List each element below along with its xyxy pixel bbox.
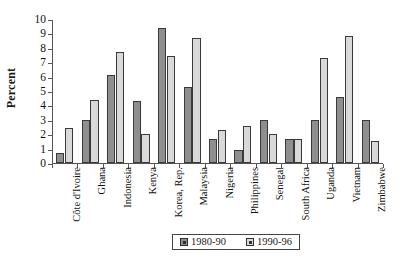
x-axis-category-label: Zimbabwe	[374, 167, 385, 212]
bar	[167, 56, 175, 163]
y-axis-tick-labels: 109876543210	[28, 20, 46, 164]
x-axis-line	[52, 163, 383, 164]
y-axis-tick	[48, 92, 52, 93]
bar	[294, 139, 302, 163]
y-axis-tick-label: 4	[30, 100, 46, 112]
x-axis-category-label: Korea, Rep.	[171, 167, 182, 217]
y-axis-tick-label: 5	[30, 86, 46, 98]
bar	[234, 150, 242, 163]
x-axis-category-label: Uganda	[323, 167, 334, 200]
bar	[285, 139, 293, 163]
y-axis-tick	[48, 49, 52, 50]
legend-swatch-icon-1990-96	[246, 238, 254, 246]
bar	[158, 28, 166, 163]
x-axis-category-label: Côte d'Ivoire	[69, 167, 80, 222]
x-axis-category-label: Kenya	[145, 167, 156, 194]
bar	[260, 120, 268, 163]
bar	[56, 153, 64, 163]
y-axis-tick-label: 9	[30, 28, 46, 40]
x-axis-category-label: Indonesia	[120, 167, 131, 208]
x-axis-category-label: Ghana	[94, 167, 105, 194]
y-axis-tick	[48, 121, 52, 122]
bar	[209, 139, 217, 163]
bar	[65, 128, 73, 163]
y-axis-tick-label: 2	[30, 129, 46, 141]
y-axis-tick-label: 3	[30, 115, 46, 127]
x-axis-category-label: Philippines	[247, 167, 258, 214]
y-axis-tick-label: 0	[30, 158, 46, 170]
bar	[243, 126, 251, 163]
bar	[320, 58, 328, 163]
legend-label-series-1: 1990-96	[257, 237, 292, 248]
bar	[116, 52, 124, 163]
legend-item-series-1: 1990-96	[246, 237, 292, 248]
y-axis-tick-label: 7	[30, 57, 46, 69]
x-axis-category-label: South Africa	[298, 167, 309, 220]
x-axis-category-labels: Côte d'IvoireGhanaIndonesiaKenyaKorea, R…	[52, 167, 383, 229]
y-axis-tick	[48, 135, 52, 136]
x-axis-category-label: Nigeria	[222, 167, 233, 199]
bar	[336, 97, 344, 163]
bar	[107, 75, 115, 163]
bar	[371, 141, 379, 163]
legend-swatch-icon-1980-90	[180, 238, 188, 246]
bar	[90, 100, 98, 163]
y-axis-tick-label: 10	[30, 14, 46, 26]
bar	[362, 120, 370, 163]
bar-chart: Percent 109876543210 Côte d'IvoireGhanaI…	[0, 0, 402, 261]
legend-label-series-0: 1980-90	[191, 237, 226, 248]
bar	[82, 120, 90, 163]
y-axis-tick-label: 8	[30, 43, 46, 55]
bar	[141, 134, 149, 163]
y-axis-tick	[48, 34, 52, 35]
bar	[269, 134, 277, 163]
y-axis-tick	[48, 20, 52, 21]
bar	[345, 36, 353, 163]
x-axis-category-label: Senegal	[272, 167, 283, 200]
y-axis-tick-label: 1	[30, 144, 46, 156]
legend-item-series-0: 1980-90	[180, 237, 226, 248]
bar	[184, 87, 192, 163]
chart-legend: 1980-90 1990-96	[172, 234, 300, 250]
y-axis-title: Percent	[4, 42, 22, 134]
bar	[311, 120, 319, 163]
bar	[218, 130, 226, 163]
bar	[192, 38, 200, 163]
y-axis-tick-label: 6	[30, 72, 46, 84]
y-axis-tick	[48, 106, 52, 107]
bar	[133, 101, 141, 163]
y-axis-line	[52, 20, 53, 164]
y-axis-tick	[48, 63, 52, 64]
plot-area	[52, 20, 382, 163]
y-axis-tick	[48, 150, 52, 151]
x-axis-category-label: Vietnam	[349, 167, 360, 203]
x-axis-category-label: Malaysia	[196, 167, 207, 206]
y-axis-tick	[48, 78, 52, 79]
